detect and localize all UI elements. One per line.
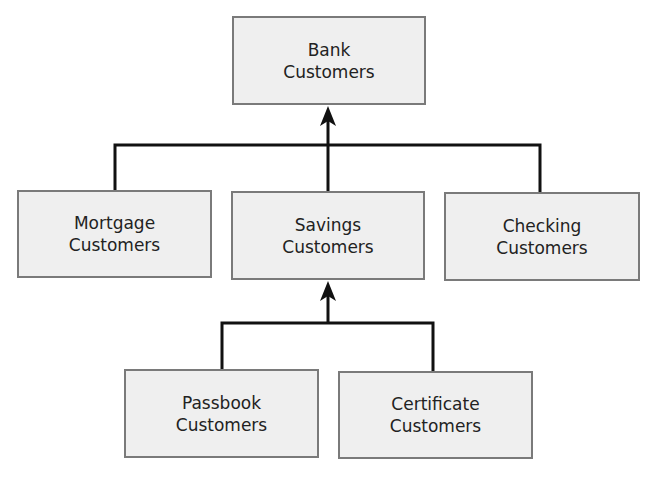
node-label-line1: Bank	[308, 39, 351, 61]
node-label-line1: Mortgage	[74, 212, 155, 234]
node-label-line1: Checking	[503, 215, 582, 237]
node-passbook-customers: Passbook Customers	[124, 369, 319, 458]
node-savings-customers: Savings Customers	[231, 191, 425, 280]
node-certificate-customers: Certificate Customers	[338, 371, 533, 459]
node-label-line2: Customers	[176, 414, 267, 436]
node-label-line2: Customers	[69, 234, 160, 256]
node-label-line2: Customers	[282, 236, 373, 258]
node-checking-customers: Checking Customers	[444, 192, 640, 281]
node-label-line2: Customers	[496, 237, 587, 259]
node-mortgage-customers: Mortgage Customers	[17, 190, 212, 278]
node-label-line2: Customers	[283, 61, 374, 83]
node-label-line1: Savings	[295, 214, 361, 236]
bottom-bracket-line	[222, 323, 433, 371]
node-label-line2: Customers	[390, 415, 481, 437]
node-label-line1: Certificate	[391, 393, 479, 415]
node-bank-customers: Bank Customers	[232, 16, 426, 105]
node-label-line1: Passbook	[182, 392, 261, 414]
